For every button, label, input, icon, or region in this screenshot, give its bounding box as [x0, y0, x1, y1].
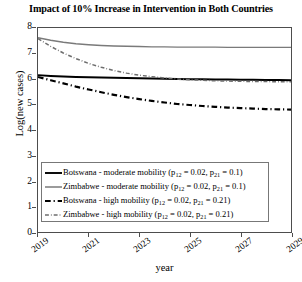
y-tick-mark	[32, 156, 36, 157]
y-tick-mark	[32, 27, 36, 28]
x-tick-mark	[88, 233, 89, 237]
x-tick-mark	[190, 233, 191, 237]
x-tick-label: 2029	[276, 236, 302, 261]
series-line-botswana-moderate	[38, 75, 291, 80]
y-tick-mark	[32, 130, 36, 131]
y-tick-mark	[32, 79, 36, 80]
y-axis-tick-labels: 012345678	[0, 27, 37, 233]
x-tick-mark	[139, 233, 140, 237]
series-line-zimbabwe-high	[38, 39, 291, 82]
chart-figure: Impact of 10% Increase in Intervention i…	[0, 0, 302, 282]
x-tick-label: 2027	[225, 236, 255, 261]
legend-item[interactable]: Zimbabwe - moderate mobility (p12 = 0.02…	[45, 180, 265, 194]
series-line-zimbabwe-moderate	[38, 38, 291, 48]
x-axis-label: year	[37, 262, 292, 273]
y-tick-mark	[32, 53, 36, 54]
x-tick-mark	[37, 233, 38, 237]
y-tick-mark	[32, 233, 36, 234]
x-tick-label: 2021	[72, 236, 102, 261]
chart-legend: Botswana - moderate mobility (p12 = 0.02…	[41, 162, 269, 222]
x-axis-tick-labels: 201920212023202520272029	[37, 233, 292, 263]
legend-label: Botswana - high mobility (p12 = 0.02, p2…	[63, 196, 230, 206]
legend-label: Botswana - moderate mobility (p12 = 0.02…	[63, 168, 243, 178]
x-tick-label: 2019	[21, 236, 51, 261]
chart-title: Impact of 10% Increase in Intervention i…	[0, 3, 302, 14]
legend-line-swatch	[45, 167, 62, 179]
legend-item[interactable]: Botswana - high mobility (p12 = 0.02, p2…	[45, 194, 265, 208]
legend-line-swatch	[45, 181, 62, 193]
legend-label: Zimbabwe - moderate mobility (p12 = 0.02…	[63, 182, 246, 192]
x-tick-label: 2025	[174, 236, 204, 261]
y-tick-mark	[32, 207, 36, 208]
legend-label: Zimbabwe - high mobility (p12 = 0.02, p2…	[63, 210, 233, 220]
series-line-botswana-high	[38, 77, 291, 110]
legend-item[interactable]: Botswana - moderate mobility (p12 = 0.02…	[45, 166, 265, 180]
legend-line-swatch	[45, 195, 62, 207]
legend-line-swatch	[45, 209, 62, 221]
x-tick-mark	[292, 233, 293, 237]
y-tick-mark	[32, 104, 36, 105]
y-tick-mark	[32, 182, 36, 183]
legend-item[interactable]: Zimbabwe - high mobility (p12 = 0.02, p2…	[45, 208, 265, 222]
x-tick-label: 2023	[123, 236, 153, 261]
x-tick-mark	[241, 233, 242, 237]
